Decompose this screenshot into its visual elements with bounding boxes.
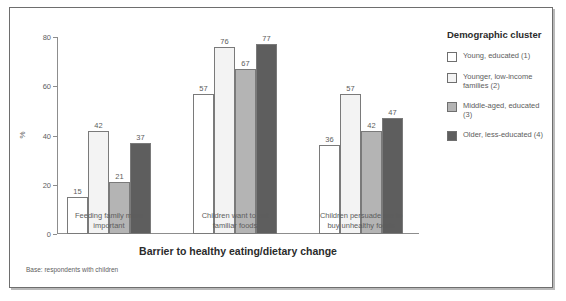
legend-swatch-icon xyxy=(447,102,457,112)
y-tick-label: 20 xyxy=(43,180,51,189)
y-tick-label: 80 xyxy=(43,33,51,42)
bar-value-label: 37 xyxy=(136,133,144,142)
y-tick-mark xyxy=(53,86,57,87)
legend-item[interactable]: Middle-aged, educated (3) xyxy=(447,101,547,120)
legend-item[interactable]: Older, less-educated (4) xyxy=(447,130,547,141)
legend-item-label: Younger, low-income families (2) xyxy=(463,72,547,91)
bar-value-label: 42 xyxy=(367,121,375,130)
x-axis-group-label-line: Children persuade me to xyxy=(286,211,436,221)
legend-item[interactable]: Young, educated (1) xyxy=(447,51,547,62)
x-axis-group-label: Children persuade me tobuy unhealthy foo… xyxy=(286,211,436,231)
y-axis-label: % xyxy=(18,131,27,138)
bar-value-label: 47 xyxy=(388,108,396,117)
bar-value-label: 77 xyxy=(262,34,270,43)
legend-item-label: Older, less-educated (4) xyxy=(463,130,543,140)
y-tick-mark xyxy=(53,234,57,235)
legend-swatch-icon xyxy=(447,131,457,141)
legend-item-label: Middle-aged, educated (3) xyxy=(463,101,547,120)
y-tick-label: 40 xyxy=(43,131,51,140)
legend-item[interactable]: Younger, low-income families (2) xyxy=(447,72,547,91)
bar-group: 36574247 xyxy=(319,37,403,234)
x-axis-group-label-line: buy unhealthy foods xyxy=(286,221,436,231)
bar-value-label: 36 xyxy=(325,135,333,144)
y-tick-mark xyxy=(53,136,57,137)
bar-value-label: 42 xyxy=(94,121,102,130)
bar-value-label: 21 xyxy=(115,172,123,181)
legend-swatch-icon xyxy=(447,52,457,62)
y-tick-label: 60 xyxy=(43,82,51,91)
bar: 77 xyxy=(256,44,277,234)
y-axis-line xyxy=(57,37,58,234)
bar-group: 15422137 xyxy=(67,37,151,234)
legend-item-label: Young, educated (1) xyxy=(463,51,530,61)
bar-value-label: 15 xyxy=(73,187,81,196)
chart-frame: % 020406080 154221375776677736574247 Fee… xyxy=(9,7,553,288)
base-note: Base: respondents with children xyxy=(26,266,118,273)
x-axis-title: Barrier to healthy eating/dietary change xyxy=(57,245,419,257)
plot-area: % 020406080 154221375776677736574247 xyxy=(57,37,419,234)
legend-items: Young, educated (1)Younger, low-income f… xyxy=(447,51,547,141)
bar-value-label: 67 xyxy=(241,59,249,68)
y-tick-mark xyxy=(53,185,57,186)
bar: 76 xyxy=(214,47,235,234)
legend: Demographic cluster Young, educated (1)Y… xyxy=(447,29,547,141)
bar-group: 57766777 xyxy=(193,37,277,234)
bar-value-label: 57 xyxy=(199,84,207,93)
bar-value-label: 76 xyxy=(220,37,228,46)
legend-title: Demographic cluster xyxy=(447,29,547,41)
bar: 67 xyxy=(235,69,256,234)
y-tick-mark xyxy=(53,37,57,38)
bar-value-label: 57 xyxy=(346,84,354,93)
legend-swatch-icon xyxy=(447,73,457,83)
